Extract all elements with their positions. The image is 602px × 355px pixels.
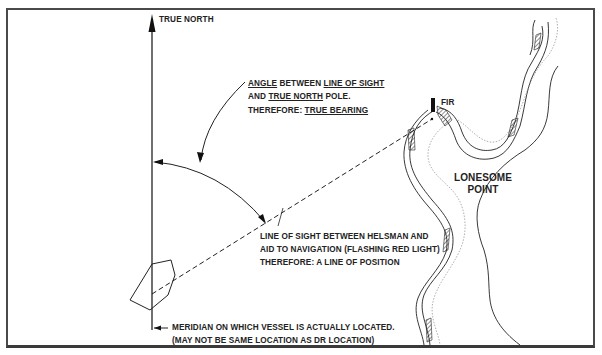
lonesome-word: LONESOME [448, 172, 518, 184]
los-leader [278, 208, 283, 226]
north-arrow-icon [149, 14, 156, 32]
angle-note-line2: AND TRUE NORTH POLE. [248, 93, 351, 101]
therefore-word: THEREFORE: [248, 106, 305, 115]
lonesome-point-label: LONESOME POINT [448, 172, 518, 196]
flashing-red-light-icon [431, 98, 435, 120]
true-north-term: TRUE NORTH [268, 92, 323, 101]
between-word: BETWEEN [277, 79, 323, 88]
true-north-label: TRUE NORTH [159, 16, 214, 24]
angle-word: ANGLE [248, 79, 277, 88]
angle-note-line1: ANGLE BETWEEN LINE OF SIGHT [248, 80, 384, 88]
fir-label: FIR [441, 99, 455, 107]
and-word: AND [248, 92, 268, 101]
true-north-meridian [149, 14, 156, 330]
point-word: POINT [448, 184, 518, 196]
angle-note-line3: THEREFORE: TRUE BEARING [248, 107, 368, 115]
meridian-note-line1: MERIDIAN ON WHICH VESSEL IS ACTUALLY LOC… [172, 324, 395, 332]
meridian-note-line2: (MAY NOT BE SAME LOCATION AS DR LOCATION… [172, 337, 374, 345]
line-of-sight [152, 119, 432, 294]
meridian-leader-arrow [154, 326, 168, 331]
bearing-arc [153, 159, 266, 224]
los-note-line2: AID TO NAVIGATION (FLASHING RED LIGHT) [260, 246, 440, 254]
los-note-line1: LINE OF SIGHT BETWEEN HELSMAN AND [260, 233, 429, 241]
true-bearing-term: TRUE BEARING [305, 106, 369, 115]
angle-leader-arrow [197, 82, 245, 163]
los-note-line3: THEREFORE: A LINE OF POSITION [260, 259, 400, 267]
pole-word: POLE. [323, 92, 350, 101]
line-of-sight-term: LINE OF SIGHT [324, 79, 385, 88]
